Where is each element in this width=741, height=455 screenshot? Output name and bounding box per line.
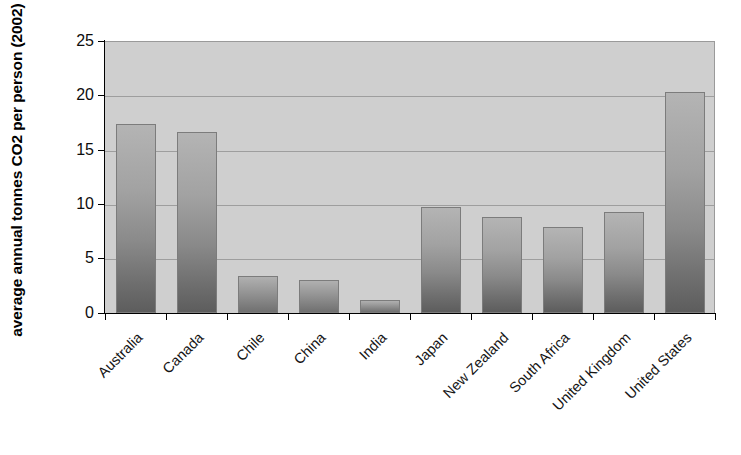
- x-tick-mark-0: [105, 313, 106, 320]
- y-tick-label-25: 25: [56, 32, 94, 50]
- y-tick-mark-15: [98, 150, 105, 151]
- bar-slot-united-states: [654, 41, 715, 313]
- bar-south-africa[interactable]: [543, 227, 583, 313]
- bar-slot-chile: [227, 41, 288, 313]
- bar-united-kingdom[interactable]: [604, 212, 644, 313]
- bar-japan[interactable]: [421, 207, 461, 313]
- bars-layer: [105, 41, 715, 313]
- y-axis-title: average annual tonnes CO2 per person (20…: [0, 0, 34, 340]
- y-tick-label-5: 5: [56, 249, 94, 267]
- y-tick-mark-10: [98, 204, 105, 205]
- y-tick-mark-0: [98, 313, 105, 314]
- x-tick-mark-2: [227, 313, 228, 320]
- y-tick-mark-5: [98, 258, 105, 259]
- bar-slot-south-africa: [532, 41, 593, 313]
- bar-slot-japan: [410, 41, 471, 313]
- y-tick-label-10: 10: [56, 195, 94, 213]
- bar-slot-canada: [166, 41, 227, 313]
- bar-china[interactable]: [299, 280, 339, 313]
- x-tick-mark-7: [532, 313, 533, 320]
- x-tick-mark-6: [471, 313, 472, 320]
- bar-slot-united-kingdom: [593, 41, 654, 313]
- y-tick-label-15: 15: [56, 141, 94, 159]
- bar-canada[interactable]: [177, 132, 217, 313]
- bar-slot-india: [349, 41, 410, 313]
- bar-slot-new-zealand: [471, 41, 532, 313]
- x-tick-mark-4: [349, 313, 350, 320]
- y-tick-mark-20: [98, 95, 105, 96]
- bar-chile[interactable]: [238, 276, 278, 313]
- bar-new-zealand[interactable]: [482, 217, 522, 313]
- x-tick-mark-1: [166, 313, 167, 320]
- bar-slot-australia: [105, 41, 166, 313]
- bar-australia[interactable]: [116, 124, 156, 313]
- x-tick-mark-3: [288, 313, 289, 320]
- bar-slot-china: [288, 41, 349, 313]
- x-tick-mark-8: [593, 313, 594, 320]
- bar-united-states[interactable]: [665, 92, 705, 313]
- y-tick-label-0: 0: [56, 304, 94, 322]
- x-tick-mark-5: [410, 313, 411, 320]
- y-tick-label-20: 20: [56, 86, 94, 104]
- bar-india[interactable]: [360, 300, 400, 313]
- y-tick-mark-25: [98, 41, 105, 42]
- bar-chart-figure: average annual tonnes CO2 per person (20…: [0, 0, 741, 455]
- x-tick-mark-10: [715, 313, 716, 320]
- x-tick-mark-9: [654, 313, 655, 320]
